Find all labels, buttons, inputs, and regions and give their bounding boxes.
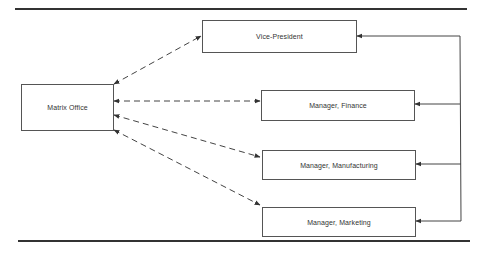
manager-manufacturing-label: Manager, Manufacturing <box>300 162 378 169</box>
box-matrix-office: Matrix Office <box>21 84 114 131</box>
matrix-office-label: Matrix Office <box>47 104 87 111</box>
dashed-link-manufacturing <box>114 115 260 157</box>
box-manager-finance: Manager, Finance <box>261 90 415 121</box>
vice-president-label: Vice-President <box>256 33 303 40</box>
dashed-link-vice-president <box>114 36 201 84</box>
manager-finance-label: Manager, Finance <box>309 102 367 109</box>
box-vice-president: Vice-President <box>202 20 357 53</box>
manager-marketing-label: Manager, Marketing <box>307 219 371 226</box>
box-manager-manufacturing: Manager, Manufacturing <box>262 150 416 180</box>
solid-vertical-trunk <box>460 36 461 221</box>
dashed-link-marketing <box>114 130 260 205</box>
box-manager-marketing: Manager, Marketing <box>262 207 416 237</box>
